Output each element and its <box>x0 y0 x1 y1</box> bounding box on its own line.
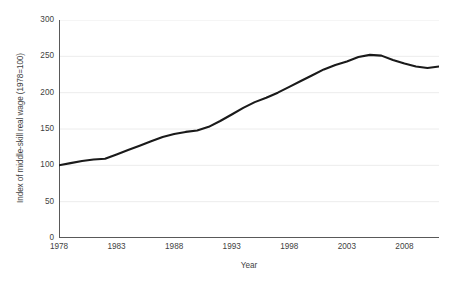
x-tick-label: 1983 <box>97 242 137 251</box>
plot-area <box>59 20 439 238</box>
x-tick-label: 1993 <box>212 242 252 251</box>
chart-figure: Index of middle-skill real wage (1978=10… <box>0 0 459 285</box>
x-axis-title: Year <box>59 261 439 270</box>
x-tick-label: 1988 <box>154 242 194 251</box>
x-tick-label: 1978 <box>39 242 79 251</box>
line-chart-svg <box>59 20 439 238</box>
x-tick-label: 2003 <box>327 242 367 251</box>
x-tick-label: 2008 <box>384 242 424 251</box>
data-line-series-1 <box>59 55 439 165</box>
gridlines <box>59 20 439 202</box>
x-tick-label: 1998 <box>269 242 309 251</box>
